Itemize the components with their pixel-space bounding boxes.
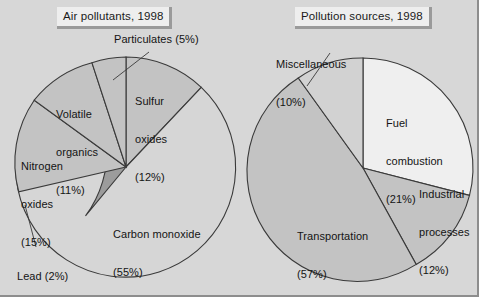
label-transportation: Transportation (57%)	[297, 205, 368, 297]
label-transportation-line2: (57%)	[297, 268, 368, 281]
label-transportation-line1: Transportation	[297, 230, 368, 243]
chart-title-air-pollutants: Air pollutants, 1998	[57, 7, 172, 29]
label-nitrogen-oxides-line3: (15%)	[21, 236, 63, 249]
label-nitrogen-oxides-line1: Nitrogen	[21, 160, 63, 173]
label-carbon-monoxide: Carbon monoxide (55%)	[113, 203, 201, 297]
label-particulates: Particulates (5%)	[114, 33, 199, 46]
label-sulfur-oxides-line2: oxides	[135, 133, 167, 146]
label-industrial-processes-line2: processes	[419, 226, 470, 239]
label-nitrogen-oxides-line2: oxides	[21, 198, 63, 211]
label-volatile-organics-line1: Volatile	[56, 108, 98, 121]
label-miscellaneous-line1: Miscellaneous	[276, 58, 346, 71]
label-industrial-processes-line3: (12%)	[419, 264, 470, 277]
label-fuel-combustion-line1: Fuel	[386, 117, 443, 130]
label-sulfur-oxides-line3: (12%)	[135, 171, 167, 184]
label-sulfur-oxides-line1: Sulfur	[135, 95, 167, 108]
label-nitrogen-oxides: Nitrogen oxides (15%)	[21, 135, 63, 274]
label-miscellaneous-line2: (10%)	[276, 96, 346, 109]
chart-title-pollution-sources: Pollution sources, 1998	[295, 7, 432, 29]
label-industrial-processes-line1: Industrial	[419, 188, 470, 201]
label-sulfur-oxides: Sulfur oxides (12%)	[135, 70, 167, 209]
figure-container: Air pollutants, 1998 Pollution sources, …	[0, 0, 479, 297]
label-miscellaneous: Miscellaneous (10%)	[276, 33, 346, 134]
label-lead: Lead (2%)	[17, 270, 68, 283]
label-carbon-monoxide-line2: (55%)	[113, 266, 201, 279]
label-carbon-monoxide-line1: Carbon monoxide	[113, 228, 201, 241]
label-industrial-processes: Industrial processes (12%)	[419, 163, 470, 297]
